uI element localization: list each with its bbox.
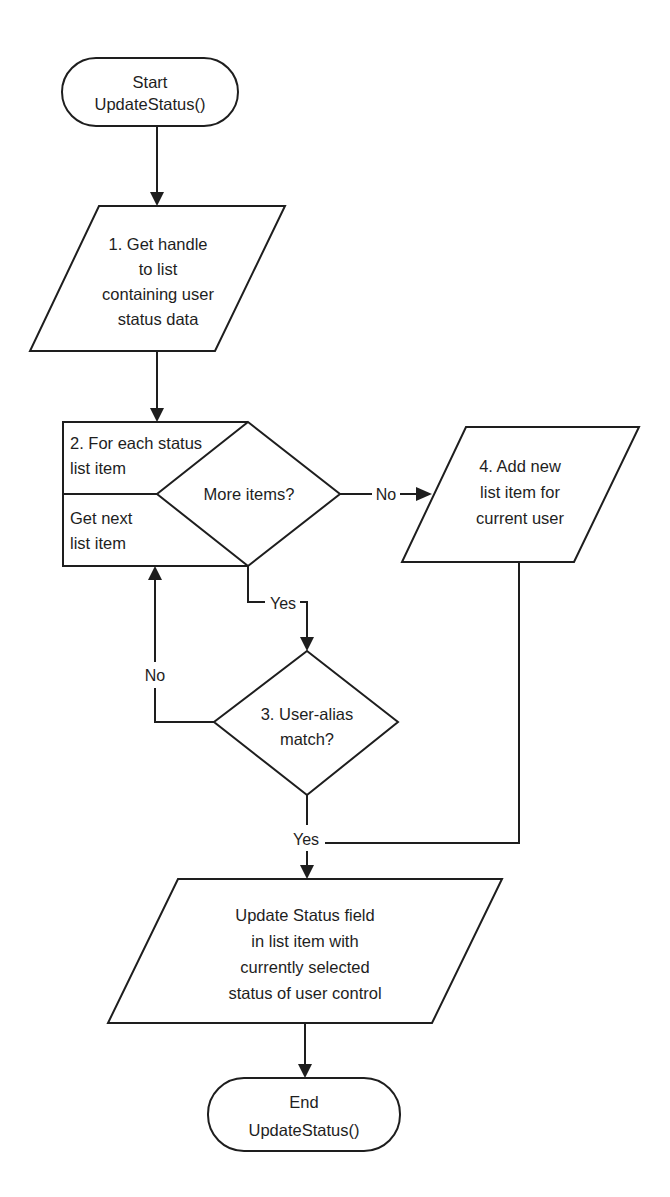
step1-line-1: 1. Get handle (108, 235, 207, 253)
edge-match-no: No (145, 566, 214, 722)
more-items-label: More items? (204, 485, 295, 503)
update-line-2: in list item with (251, 932, 358, 950)
step1-line-3: containing user (102, 285, 214, 303)
step1-line-2: to list (139, 260, 178, 278)
arrow-update-to-end (298, 1023, 312, 1078)
start-label-line-2: UpdateStatus() (95, 95, 206, 113)
step4-add-list-item: 4. Add new list item for current user (402, 427, 639, 562)
step4-line-3: current user (476, 509, 565, 527)
edge-match-no-label: No (145, 667, 166, 684)
edge-more-yes: Yes (248, 566, 314, 651)
start-terminal: Start UpdateStatus() (62, 58, 238, 126)
update-line-4: status of user control (228, 984, 381, 1002)
step4-line-2: list item for (480, 483, 560, 501)
step2-top-line-1: 2. For each status (70, 434, 202, 452)
edge-match-yes-label: Yes (293, 831, 319, 848)
update-line-3: currently selected (240, 958, 369, 976)
arrow-step1-to-step2 (150, 351, 164, 422)
step3-line-1: 3. User-alias (261, 705, 354, 723)
edge-more-no: No (340, 486, 432, 503)
edge-more-yes-label: Yes (270, 595, 296, 612)
step1-line-4: status data (118, 310, 200, 328)
edge-match-yes: Yes (293, 795, 319, 879)
step2-top-line-2: list item (70, 459, 126, 477)
end-label-line-2: UpdateStatus() (249, 1121, 360, 1139)
end-terminal: End UpdateStatus() (208, 1078, 400, 1151)
arrow-start-to-step1 (150, 126, 164, 206)
update-line-1: Update Status field (235, 906, 374, 924)
edge-more-no-label: No (376, 486, 397, 503)
step3-user-alias-decision: 3. User-alias match? (214, 651, 398, 795)
step3-line-2: match? (280, 730, 334, 748)
update-status-field: Update Status field in list item with cu… (108, 879, 502, 1023)
step2-bottom-line-1: Get next (70, 509, 133, 527)
step2-bottom-line-2: list item (70, 534, 126, 552)
start-label-line-1: Start (133, 73, 168, 91)
flowchart-canvas: Start UpdateStatus() 1. Get handle to li… (0, 0, 670, 1197)
step4-line-1: 4. Add new (479, 457, 561, 475)
end-label-line-1: End (289, 1093, 318, 1111)
step1-get-handle: 1. Get handle to list containing user st… (30, 206, 285, 351)
